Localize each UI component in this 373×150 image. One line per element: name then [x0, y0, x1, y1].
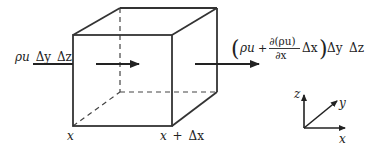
y-axis [304, 101, 337, 128]
outflow-dz: Δz [349, 41, 364, 55]
control-volume-diagram: ρu Δy Δz ( ρu + ∂(ρu) ∂x Δx ) Δy Δz x x … [0, 0, 373, 150]
inflow-flux-label: ρu Δy Δz [14, 50, 72, 64]
position-plus: + [173, 129, 183, 143]
outflow-flux-label: ( ρu + ∂(ρu) ∂x Δx ) Δy Δz [231, 35, 364, 61]
outflow-plus: + [258, 42, 267, 55]
hidden-bottom-left-depth-edge [73, 92, 120, 126]
inflow-dz: Δz [57, 50, 72, 64]
cube-front-face [73, 35, 172, 126]
outflow-fraction-denominator: ∂x [275, 49, 286, 61]
z-axis-label: z [293, 87, 301, 101]
outflow-dx: Δx [302, 41, 318, 55]
visible-edges [73, 8, 217, 126]
outflow-rho-u: ρu [239, 41, 255, 55]
inflow-dy: Δy [36, 50, 52, 64]
cube-top-left-depth-edge [73, 8, 120, 35]
y-axis-label: y [338, 96, 346, 110]
outflow-dy: Δy [327, 41, 343, 55]
position-label-x-plus-dx: x + Δx [160, 129, 204, 143]
position-dx: Δx [189, 129, 205, 143]
outflow-fraction-numerator: ∂(ρu) [269, 35, 296, 47]
outflow-open-paren: ( [231, 36, 240, 61]
position-label-x: x [67, 129, 74, 143]
cube-bottom-right-depth-edge [172, 92, 217, 126]
inflow-rho-u: ρu [14, 50, 30, 64]
position-x: x [160, 129, 167, 143]
cube-top-right-depth-edge [172, 8, 217, 35]
x-axis-label: x [339, 132, 346, 146]
